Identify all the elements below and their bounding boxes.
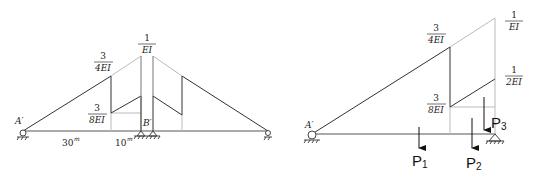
left-support-a-label: A′ — [14, 116, 24, 126]
left-label-lower: 3 8EI — [88, 103, 107, 125]
dimension-unit: m — [74, 135, 80, 142]
fraction-denominator: 8EI — [89, 115, 105, 125]
fraction-denominator: 4EI — [427, 35, 444, 45]
fraction-denominator: 8EI — [428, 105, 444, 115]
fraction-numerator: 1 — [511, 10, 517, 20]
left-label-upper: 3 4EI — [94, 51, 113, 73]
right-support-a-label: A′ — [304, 120, 314, 130]
fraction-denominator: 4EI — [94, 63, 111, 73]
left-support-b-label: B′ — [142, 118, 152, 128]
load-subscript: 2 — [476, 161, 482, 172]
dimension-value: 30 — [62, 138, 74, 148]
left-support-right — [264, 131, 272, 141]
right-diagram: P 1 P 2 P 3 1 EI 3 4EI 3 8EI — [304, 10, 523, 172]
right-peak-guides — [450, 18, 495, 134]
left-support-b — [134, 131, 160, 139]
fraction-denominator: 2EI — [505, 77, 522, 87]
load-label: P — [491, 114, 501, 131]
right-moment-diagram — [312, 47, 495, 134]
fraction-numerator: 3 — [433, 23, 439, 33]
fraction-numerator: 1 — [511, 65, 517, 75]
load-label: P — [466, 154, 476, 171]
dimension-unit: m — [127, 135, 133, 142]
right-label-mid: 1 2EI — [505, 65, 523, 87]
load-p1: P 1 — [412, 127, 428, 170]
right-support-a — [304, 131, 320, 143]
conjugate-beam-diagrams: 1 EI 3 4EI 3 8EI A′ B′ 30 m 10 m — [0, 0, 534, 180]
right-label-peak: 1 EI — [505, 10, 523, 32]
load-p2: P 2 — [466, 118, 482, 172]
dimension-30m: 30 m — [62, 135, 80, 148]
dimension-10m: 10 m — [115, 135, 133, 148]
fraction-numerator: 3 — [94, 103, 100, 113]
load-subscript: 1 — [422, 159, 428, 170]
left-label-peak: 1 EI — [138, 33, 156, 55]
right-label-upper: 3 4EI — [427, 23, 446, 45]
fraction-numerator: 3 — [433, 93, 439, 103]
right-label-lower: 3 8EI — [427, 93, 446, 115]
left-diagram: 1 EI 3 4EI 3 8EI A′ B′ 30 m 10 m — [14, 33, 272, 148]
load-subscript: 3 — [501, 121, 507, 132]
fraction-numerator: 1 — [144, 33, 150, 43]
dimension-value: 10 — [115, 138, 127, 148]
fraction-denominator: EI — [508, 22, 520, 32]
fraction-denominator: EI — [141, 45, 153, 55]
fraction-numerator: 3 — [100, 51, 106, 61]
load-label: P — [412, 152, 422, 169]
right-support-b — [486, 134, 504, 144]
